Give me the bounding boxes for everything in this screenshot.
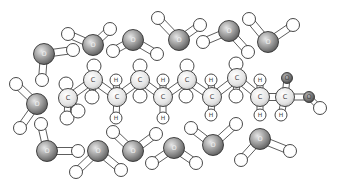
carbon-atom: C [154, 88, 173, 107]
carbon-atom: C [178, 71, 197, 90]
hydrogen-atom [190, 157, 203, 170]
hydrogen-sphere [287, 19, 300, 32]
oxygen-label: O [130, 36, 135, 44]
oxygen-atom: O [250, 129, 271, 150]
oxygen-label: O [130, 147, 135, 155]
hydrogen-atom [194, 19, 207, 32]
hydrogen-atom [14, 122, 27, 135]
hydrogen-sphere [14, 122, 27, 135]
hydrogen-sphere [146, 157, 159, 170]
hydrogen-atom: H [205, 109, 217, 121]
carbon-label: C [210, 93, 215, 101]
hydrogen-atom [230, 118, 243, 131]
hydrogen-sphere [314, 102, 327, 115]
oxygen-small-label: O [284, 74, 289, 82]
hydrogen-label: H [161, 76, 166, 83]
oxygen-label: O [44, 147, 49, 155]
hydrogen-sphere [133, 89, 147, 103]
hydrogen-sphere [10, 78, 23, 91]
hydrogen-atom: H [157, 112, 169, 124]
hydrogen-atom [185, 122, 198, 135]
hydrogen-atom [10, 78, 23, 91]
oxygen-small-label: O [306, 93, 311, 101]
hydrogen-sphere [243, 13, 256, 26]
hydrogen-atom [62, 28, 75, 41]
hydrogen-sphere [151, 48, 164, 61]
hydrogen-atom [235, 154, 248, 167]
hydrogen-atom [179, 89, 193, 103]
oxygen-atom: O [27, 94, 48, 115]
hydrogen-label: H [114, 114, 119, 121]
oxygen-atom: O [123, 30, 144, 51]
hydrogen-atom [146, 157, 159, 170]
hydrogen-atom [67, 44, 80, 57]
hydrogen-atom: H [205, 74, 217, 86]
hydrogen-sphere [107, 45, 120, 58]
oxygen-atom: O [88, 141, 109, 162]
hydrogen-atom [284, 145, 297, 158]
hydrogen-sphere [36, 74, 49, 87]
hydrogen-sphere [229, 89, 243, 103]
carbon-label: C [185, 76, 190, 84]
carbon-atom: C [131, 71, 150, 90]
hydrogen-sphere [67, 44, 80, 57]
carbon-label: C [138, 76, 143, 84]
oxygen-label: O [176, 36, 181, 44]
diagram-canvas: OOOOOOOOOOOOOHHHHHHHHHCCCCCCCCCCOO [0, 0, 337, 182]
oxygen-label: O [257, 135, 262, 143]
oxygen-atom: O [37, 141, 58, 162]
hydrogen-atom: H [157, 74, 169, 86]
hydrogen-atom [243, 13, 256, 26]
hydrogen-sphere [70, 166, 83, 179]
hydrogen-label: H [258, 76, 263, 83]
carbon-atom: C [84, 71, 103, 90]
hydrogen-atom: H [254, 74, 266, 86]
carbon-label: C [283, 93, 288, 101]
hydrogen-atom [36, 74, 49, 87]
oxygen-label: O [41, 50, 46, 58]
carbon-label: C [115, 93, 120, 101]
hydrogen-sphere [150, 128, 163, 141]
hydrogen-sphere [230, 118, 243, 131]
oxygen-label: O [171, 144, 176, 152]
oxygen-atom: O [169, 30, 190, 51]
hydrogen-atom [107, 45, 120, 58]
oxygen-label: O [210, 141, 215, 149]
hydrogen-atom [314, 102, 327, 115]
hydrogen-atom [151, 48, 164, 61]
hydrogen-sphere [85, 90, 99, 104]
hydrogen-atom: H [110, 112, 122, 124]
hydrogen-atom [133, 89, 147, 103]
carbon-label: C [161, 93, 166, 101]
hydrogen-atom [115, 164, 128, 177]
carbon-atom: C [59, 89, 78, 108]
oxygen-atom: O [34, 44, 55, 65]
hydrogen-atom [152, 12, 165, 25]
hydrogen-label: H [279, 111, 284, 118]
carbon-atom: C [108, 88, 127, 107]
hydrogen-sphere [242, 46, 255, 59]
hydrogen-atom [104, 23, 117, 36]
oxygen-atom: O [203, 135, 224, 156]
hydrogen-atom [72, 145, 85, 158]
hydrogen-sphere [197, 36, 210, 49]
hydrogen-sphere [235, 154, 248, 167]
carbon-atom: C [251, 88, 270, 107]
hydrogen-label: H [209, 76, 214, 83]
hydrogen-label: H [114, 76, 119, 83]
hydrogen-sphere [35, 118, 48, 131]
oxygen-label: O [226, 27, 231, 35]
carbon-label: C [258, 93, 263, 101]
carbon-label: C [91, 76, 96, 84]
hydrogen-atom [242, 46, 255, 59]
oxygen-atom: O [258, 32, 279, 53]
oxygen-atom: O [123, 141, 144, 162]
oxygen-label: O [90, 41, 95, 49]
hydrogen-atom [107, 126, 120, 139]
oxygen-small-atom: O [282, 73, 293, 84]
oxygen-atom: O [164, 138, 185, 159]
hydrogen-sphere [179, 89, 193, 103]
hydrogen-label: H [161, 114, 166, 121]
hydrogen-atom [35, 118, 48, 131]
hydrogen-sphere [62, 28, 75, 41]
